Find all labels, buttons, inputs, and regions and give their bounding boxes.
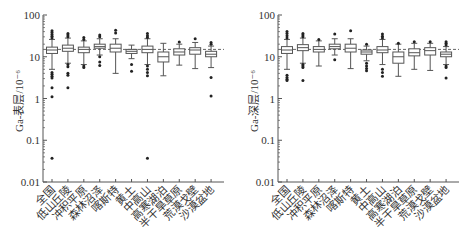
box-9	[425, 40, 436, 70]
y-tick-label: 0.1	[26, 134, 40, 146]
y-tick-label: 0.01	[21, 176, 40, 188]
box-6	[142, 32, 153, 160]
box-0	[282, 30, 293, 82]
box-4	[345, 29, 356, 68]
box-2	[78, 36, 89, 69]
boxplot-right: 0.010.1110100全国低山丘陵冲积平原森林沼泽喀斯特黄土中高山高寒湖泊半…	[235, 0, 469, 235]
box-5	[126, 45, 137, 73]
box-7	[158, 43, 169, 75]
box-1	[62, 32, 73, 89]
y-tick-label: 0.1	[261, 134, 275, 146]
y-axis-title-left: Ga-表层/10⁻⁶	[10, 70, 26, 132]
y-tick-label: 1	[35, 93, 41, 105]
y-tick-label: 10	[29, 51, 41, 63]
y-tick-label: 100	[259, 9, 276, 21]
chart-right: 0.010.1110100全国低山丘陵冲积平原森林沼泽喀斯特黄土中高山高寒湖泊半…	[235, 0, 469, 235]
box-8	[174, 41, 185, 66]
box-10	[441, 40, 452, 79]
y-tick-label: 0.01	[256, 176, 275, 188]
box-3	[94, 34, 105, 67]
box-4	[110, 29, 121, 74]
box-8	[409, 40, 420, 69]
y-axis-title-right: Ga-深层/10⁻⁶	[245, 70, 261, 132]
y-tick-label: 1	[270, 93, 276, 105]
boxplot-left: 0.010.1110100全国低山丘陵冲积平原森林沼泽喀斯特黄土中高山高寒湖泊半…	[0, 0, 234, 235]
box-6	[377, 33, 388, 78]
box-3	[329, 33, 340, 62]
box-5	[361, 43, 372, 73]
chart-left: 0.010.1110100全国低山丘陵冲积平原森林沼泽喀斯特黄土中高山高寒湖泊半…	[0, 0, 234, 235]
box-7	[393, 42, 404, 77]
box-2	[313, 38, 324, 66]
box-9	[190, 37, 201, 68]
box-0	[47, 29, 58, 160]
y-tick-label: 100	[24, 9, 41, 21]
box-1	[297, 32, 308, 82]
y-tick-label: 10	[264, 51, 276, 63]
